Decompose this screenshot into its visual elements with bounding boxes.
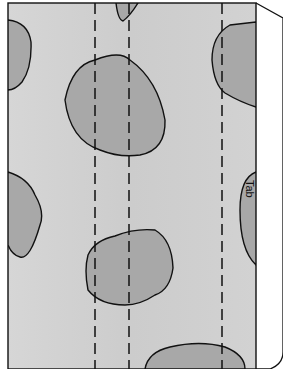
- template-diagram: [0, 0, 283, 369]
- tab-label: Tab: [244, 180, 256, 198]
- tab-flap: [256, 3, 283, 369]
